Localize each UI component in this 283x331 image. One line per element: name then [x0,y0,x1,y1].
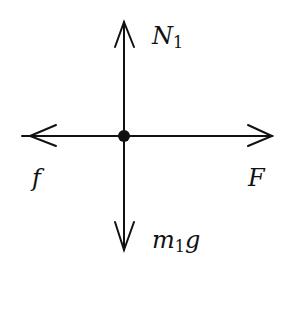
weight-subscript: 1 [175,237,185,256]
label-normal-force: N1 [152,24,183,48]
weight-symbol: m [152,226,175,254]
normal-subscript: 1 [173,33,183,52]
label-friction: f [32,166,41,190]
body-point [118,130,130,142]
friction-symbol: f [32,164,41,192]
applied-symbol: F [248,164,265,192]
weight-g: g [185,226,200,254]
label-applied-force: F [248,166,265,190]
label-weight: m1g [152,228,200,252]
free-body-diagram [0,0,283,331]
normal-symbol: N [152,22,173,50]
